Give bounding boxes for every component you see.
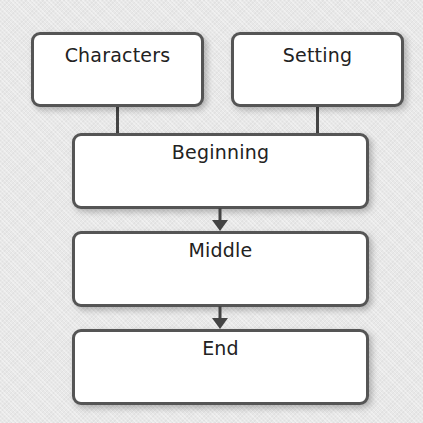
middle-label: Middle: [75, 234, 366, 261]
setting-box: Setting: [231, 32, 404, 107]
end-box: End: [72, 329, 369, 405]
characters-label: Characters: [34, 35, 201, 66]
arrow-down-icon: [211, 306, 229, 330]
end-label: End: [75, 332, 366, 359]
connector-characters-beginning: [116, 105, 119, 135]
arrow-down-icon: [211, 208, 229, 232]
setting-label: Setting: [234, 35, 401, 66]
middle-box: Middle: [72, 231, 369, 307]
characters-box: Characters: [31, 32, 204, 107]
beginning-box: Beginning: [72, 133, 369, 209]
connector-setting-beginning: [316, 105, 319, 135]
beginning-label: Beginning: [75, 136, 366, 163]
